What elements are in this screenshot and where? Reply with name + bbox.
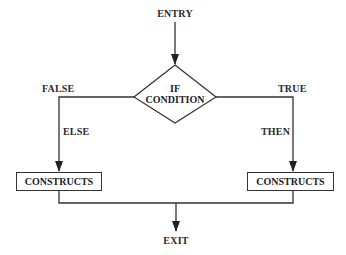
condition-line1: IF — [134, 83, 216, 94]
then-constructs-box: CONSTRUCTS — [247, 172, 334, 191]
merge-line — [59, 191, 293, 203]
exit-label: EXIT — [163, 235, 188, 246]
else-arrowhead-icon — [55, 161, 63, 172]
condition-text: IF CONDITION — [134, 83, 216, 105]
false-label: FALSE — [42, 83, 75, 94]
exit-arrowhead-icon — [172, 221, 180, 232]
flowchart-lines — [0, 0, 346, 255]
entry-arrowhead-icon — [171, 54, 179, 65]
else-constructs-box: CONSTRUCTS — [16, 172, 102, 191]
true-label: TRUE — [278, 83, 307, 94]
then-arrowhead-icon — [289, 161, 297, 172]
then-label: THEN — [261, 126, 290, 137]
else-label: ELSE — [63, 126, 89, 137]
entry-label: ENTRY — [157, 8, 193, 19]
condition-line2: CONDITION — [134, 94, 216, 105]
